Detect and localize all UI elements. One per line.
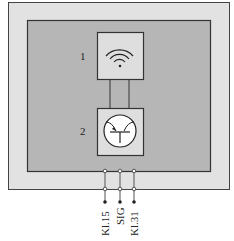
- wireless-dot-icon: [119, 65, 122, 68]
- component-2: [98, 109, 144, 156]
- component-1-label: 1: [80, 50, 86, 62]
- terminal-dots: [103, 200, 136, 204]
- terminal-label-kl31: Kl.31: [128, 211, 140, 236]
- component-2-label: 2: [80, 125, 86, 137]
- wiring-diagram: 1 2 Kl.15 SIG Kl.31: [0, 0, 234, 241]
- terminal-label-kl15: Kl.15: [99, 211, 111, 236]
- transistor-icon: [104, 115, 136, 147]
- terminal-label-sig: SIG: [114, 207, 126, 225]
- component-1: [98, 33, 144, 80]
